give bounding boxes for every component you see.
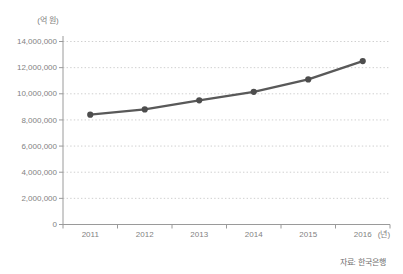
x-tick-label: 2016 (354, 230, 372, 239)
x-tick-label: 2011 (82, 230, 100, 239)
data-point-marker (87, 112, 93, 118)
data-point-marker (251, 89, 257, 95)
chart-canvas: 02,000,0004,000,0006,000,0008,000,00010,… (0, 0, 403, 274)
x-tick-label: 2015 (299, 230, 317, 239)
x-axis-unit-label: (년) (378, 229, 391, 239)
data-point-marker (360, 58, 366, 64)
x-tick-label: 2013 (190, 230, 208, 239)
y-tick-label: 8,000,000 (21, 116, 57, 125)
series-line (90, 61, 363, 115)
data-point-marker (305, 76, 311, 82)
y-tick-label: 6,000,000 (21, 142, 57, 151)
y-tick-label: 4,000,000 (21, 168, 57, 177)
x-tick-label: 2014 (245, 230, 263, 239)
x-tick-label: 2012 (136, 230, 154, 239)
y-tick-label: 10,000,000 (17, 89, 58, 98)
y-tick-label: 14,000,000 (17, 37, 58, 46)
line-chart-figure: (억 원) 02,000,0004,000,0006,000,0008,000,… (0, 0, 403, 274)
source-caption: 자료: 한국은행 (340, 256, 386, 267)
y-tick-label: 12,000,000 (17, 63, 58, 72)
y-tick-label: 0 (53, 220, 58, 229)
data-point-marker (142, 106, 148, 112)
data-point-marker (196, 97, 202, 103)
y-tick-label: 2,000,000 (21, 194, 57, 203)
